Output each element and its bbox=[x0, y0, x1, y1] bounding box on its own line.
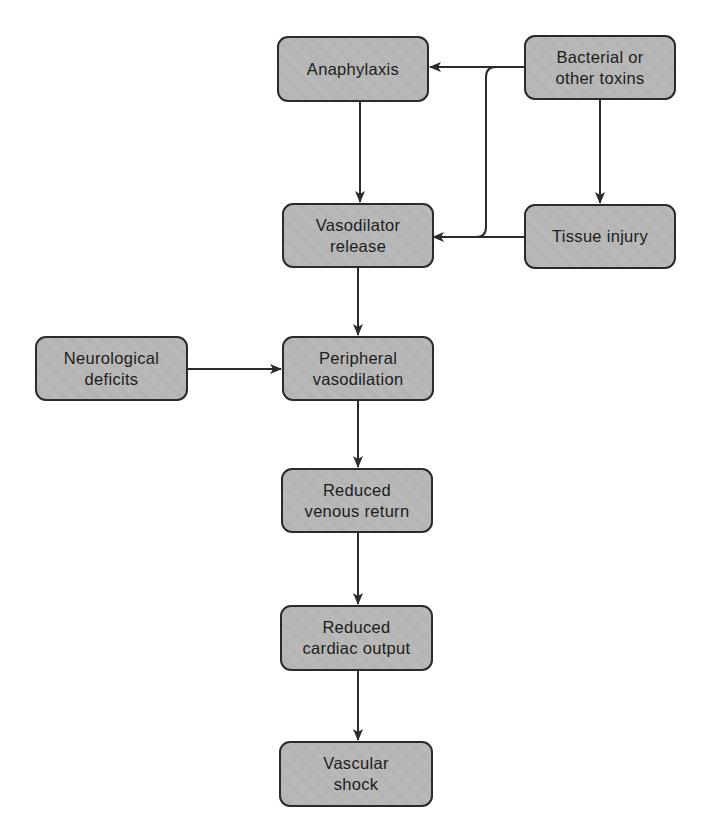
node-label: Bacterial or other toxins bbox=[556, 47, 645, 89]
node-label: Vascular shock bbox=[323, 753, 388, 795]
node-reduced-venous-return: Reduced venous return bbox=[281, 468, 433, 533]
node-tissue-injury: Tissue injury bbox=[524, 204, 676, 269]
node-neurological-deficits: Neurological deficits bbox=[35, 336, 188, 401]
node-label: Anaphylaxis bbox=[307, 59, 399, 80]
node-label: Neurological deficits bbox=[64, 348, 159, 390]
node-vasodilator-release: Vasodilator release bbox=[282, 203, 434, 268]
node-reduced-cardiac-output: Reduced cardiac output bbox=[280, 605, 433, 671]
node-bacterial-toxins: Bacterial or other toxins bbox=[524, 35, 676, 100]
edges-layer bbox=[0, 0, 708, 830]
node-label: Reduced venous return bbox=[305, 480, 410, 522]
edge-bacterial-to-vasodilator bbox=[476, 67, 496, 237]
node-label: Tissue injury bbox=[552, 226, 648, 247]
node-label: Vasodilator release bbox=[316, 215, 401, 257]
node-vascular-shock: Vascular shock bbox=[279, 741, 433, 807]
node-label: Reduced cardiac output bbox=[303, 617, 411, 659]
node-anaphylaxis: Anaphylaxis bbox=[277, 36, 429, 102]
flowchart-canvas: Anaphylaxis Bacterial or other toxins Va… bbox=[0, 0, 708, 830]
node-peripheral-vasodilation: Peripheral vasodilation bbox=[282, 336, 434, 401]
node-label: Peripheral vasodilation bbox=[313, 348, 404, 390]
